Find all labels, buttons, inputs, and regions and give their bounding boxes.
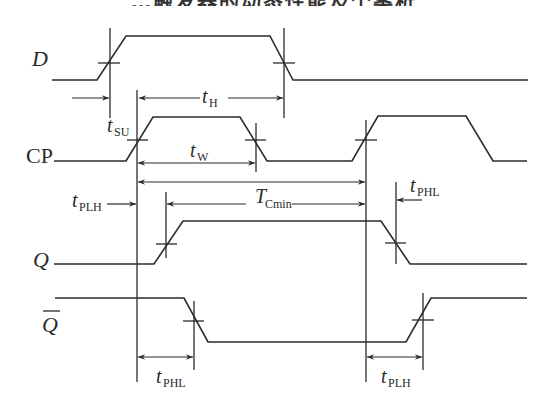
svg-text:t: t xyxy=(72,189,78,211)
svg-text:t: t xyxy=(410,174,416,196)
t-su-label: t SU xyxy=(107,114,130,139)
svg-text:W: W xyxy=(197,150,209,164)
svg-text:PHL: PHL xyxy=(417,185,440,199)
svg-text:PLH: PLH xyxy=(388,376,411,390)
t-cmin-label: T Cmin xyxy=(255,185,292,211)
t-plh-left-label: t PLH xyxy=(72,189,102,214)
signal-label-cp: CP xyxy=(26,143,53,168)
svg-text:t: t xyxy=(190,139,196,161)
svg-text:Cmin: Cmin xyxy=(265,197,292,211)
t-w-label: t W xyxy=(190,139,209,164)
t-phl-right-label: t PHL xyxy=(410,174,440,199)
t-phl-bottom-label: t PHL xyxy=(156,365,186,390)
signal-label-d: D xyxy=(31,46,48,71)
svg-text:t: t xyxy=(107,114,113,136)
svg-text:t: t xyxy=(381,365,387,387)
t-plh-bottom-label: t PLH xyxy=(381,365,411,390)
waveform-q xyxy=(54,221,527,264)
signal-label-q: Q xyxy=(33,247,49,272)
svg-text:H: H xyxy=(209,96,218,110)
signal-label-qbar: Q xyxy=(42,311,60,337)
svg-text:PLH: PLH xyxy=(79,200,102,214)
waveform-d xyxy=(52,36,528,80)
waveform-qbar xyxy=(55,298,527,342)
svg-text:SU: SU xyxy=(114,125,130,139)
t-h-label: t H xyxy=(202,85,218,110)
svg-text:t: t xyxy=(202,85,208,107)
svg-text:Q: Q xyxy=(42,312,58,337)
timing-diagram: D CP Q Q t SU t H t W t PLH xyxy=(0,0,548,407)
svg-text:t: t xyxy=(156,365,162,387)
svg-text:PHL: PHL xyxy=(163,376,186,390)
